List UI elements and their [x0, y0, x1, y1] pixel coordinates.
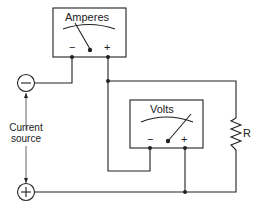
voltmeter-plus-terminal-dot [183, 146, 187, 150]
voltmeter-pivot-dot [166, 139, 170, 143]
resistor-zigzag [231, 118, 241, 150]
ammeter-needle [75, 23, 90, 49]
ammeter-scale [63, 25, 115, 30]
junction-bottom-dot [183, 190, 187, 194]
wire-ammeter-plus-to-voltmeter-minus [108, 57, 150, 171]
ammeter-plus-terminal-dot [106, 55, 110, 59]
source-label-line1: Current [9, 122, 43, 133]
ammeter-minus-terminal-dot [70, 55, 74, 59]
arrow-up-icon [24, 93, 28, 98]
voltmeter-plus-label: + [181, 133, 187, 145]
junction-top-dot [106, 79, 110, 83]
source-label-line2: source [11, 133, 41, 144]
wires [26, 57, 236, 192]
resistor-label: R [243, 127, 251, 139]
arrow-down-icon [24, 178, 28, 183]
junction-dots [70, 48, 187, 194]
ammeter-plus-label: + [104, 41, 110, 53]
voltmeter-label: Volts [150, 103, 174, 115]
wire-ammeter-minus-to-source [35, 57, 72, 83]
ammeter-minus-label: − [69, 41, 75, 53]
ammeter-label: Amperes [65, 11, 110, 23]
voltmeter-minus-terminal-dot [148, 146, 152, 150]
voltmeter-minus-label: − [147, 133, 153, 145]
circuit-diagram: Amperes − + Volts − + Current source R [0, 0, 257, 211]
ammeter-pivot-dot [88, 48, 92, 52]
